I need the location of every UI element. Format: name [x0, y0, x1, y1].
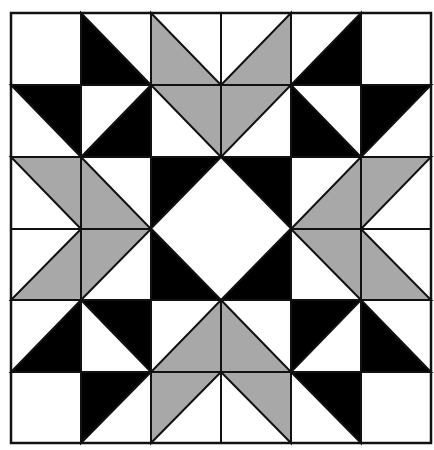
quilt-cell: [361, 372, 431, 443]
quilt-cell: [11, 13, 81, 85]
quilt-pattern: [0, 0, 434, 450]
quilt-cell: [361, 13, 431, 85]
quilt-cell: [11, 372, 81, 443]
